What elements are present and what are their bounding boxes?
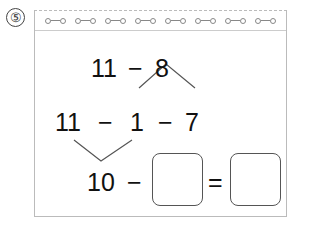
minus-sign: −	[128, 56, 143, 81]
part-one: 1	[130, 110, 144, 135]
minus-sign: −	[98, 110, 113, 135]
subtrahend: 8	[155, 56, 169, 81]
part-two: 7	[185, 110, 199, 135]
minus-sign: −	[158, 110, 173, 135]
equals-sign: =	[208, 170, 223, 195]
answer-box-subtrahend[interactable]	[152, 153, 203, 206]
minus-sign: −	[127, 170, 142, 195]
ten: 10	[87, 170, 115, 195]
answer-box-result[interactable]	[230, 153, 281, 206]
minuend: 11	[91, 56, 117, 81]
minuend: 11	[55, 110, 81, 135]
